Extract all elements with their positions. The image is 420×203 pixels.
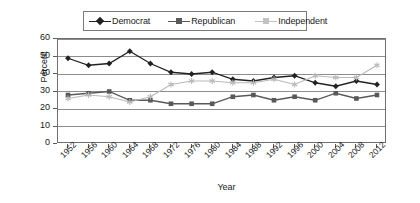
x-axis-title-text: Year	[217, 182, 235, 192]
x-axis-tick-label: 1956	[79, 140, 99, 160]
x-axis-tick-label: 2012	[368, 140, 388, 160]
x-axis-tick-label: 1972	[162, 140, 182, 160]
x-axis-labels: 1952195619601964196819721976198019841988…	[0, 0, 420, 203]
x-axis-title: Year	[0, 182, 420, 192]
x-axis-tick-label: 2008	[347, 140, 367, 160]
x-axis-tick-label: 2004	[326, 140, 346, 160]
x-axis-tick-label: 1996	[285, 140, 305, 160]
line-chart: Democrat Republican Independent Percent …	[0, 0, 420, 203]
x-axis-tick-label: 1968	[141, 140, 161, 160]
x-axis-tick-label: 1960	[100, 140, 120, 160]
x-axis-tick-label: 1984	[223, 140, 243, 160]
x-axis-tick-label: 1988	[244, 140, 264, 160]
x-axis-tick-label: 1980	[203, 140, 223, 160]
x-axis-tick-label: 2000	[306, 140, 326, 160]
x-axis-tick-label: 1964	[120, 140, 140, 160]
x-axis-tick-label: 1976	[182, 140, 202, 160]
x-axis-tick-label: 1952	[59, 140, 79, 160]
x-axis-tick-label: 1992	[265, 140, 285, 160]
